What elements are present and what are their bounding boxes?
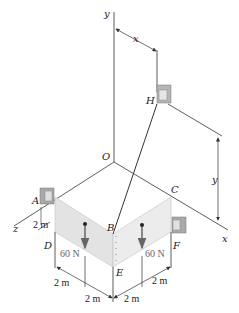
dim-bottom-left-2-label: 2 m: [85, 293, 101, 304]
point-h-label: H: [145, 95, 155, 106]
h-horizontal-guide: [168, 104, 222, 136]
hinge-support-f: [172, 217, 186, 233]
load-left-label: 60 N: [60, 248, 80, 259]
dim-bottom-left-1-label: 2 m: [54, 277, 70, 288]
x-dimension-label: x: [133, 33, 139, 44]
point-b-label: B: [106, 222, 114, 233]
point-f-label: F: [172, 240, 181, 251]
dim-bottom-right-1-label: 2 m: [152, 275, 168, 286]
bracket-support-h: [157, 85, 171, 103]
dim-bottom-right-2-label: 2 m: [124, 293, 140, 304]
statics-diagram: y x H O y C A B z x D F E 2 m 60 N 60 N …: [0, 0, 239, 313]
origin-label: O: [102, 151, 110, 162]
z-axis-label: z: [12, 223, 19, 234]
x-axis-label: x: [222, 233, 228, 244]
diagram-canvas: y x H O y C A B z x D F E 2 m 60 N 60 N …: [0, 0, 239, 313]
y-axis-label: y: [103, 8, 110, 19]
point-e-label: E: [115, 267, 124, 278]
point-d-label: D: [43, 240, 52, 251]
load-right-label: 60 N: [145, 248, 165, 259]
point-a-label: A: [31, 195, 39, 206]
dim-ad-label: 2 m: [33, 219, 49, 230]
hinge-support-a: [40, 188, 54, 204]
load-right-point: [140, 223, 144, 227]
point-c-label: C: [171, 184, 179, 195]
load-left-point: [83, 222, 87, 226]
y-dimension-label: y: [211, 174, 218, 185]
